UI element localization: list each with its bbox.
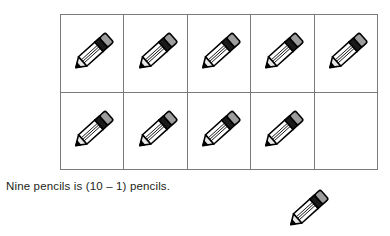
pencil-icon [277,184,337,236]
pencil-icon [193,105,245,157]
loose-pencil[interactable] [277,184,337,236]
caption-text: Nine pencils is (10 – 1) pencils. [6,180,170,192]
ten-frame-cell-3[interactable] [188,15,251,93]
ten-frame-cell-4[interactable] [251,15,314,93]
ten-frame-cell-1[interactable] [61,15,124,93]
ten-frame-cell-10-empty[interactable] [315,93,378,171]
pencil-icon [193,27,245,79]
ten-frame-cell-6[interactable] [61,93,124,171]
ten-frame-cell-2[interactable] [124,15,187,93]
ten-frame-grid [60,14,378,170]
pencil-icon [66,27,118,79]
pencil-icon [256,27,308,79]
ten-frame-cell-8[interactable] [188,93,251,171]
ten-frame-cell-7[interactable] [124,93,187,171]
pencil-icon [130,105,182,157]
ten-frame-cell-5[interactable] [315,15,378,93]
ten-frame-cell-9[interactable] [251,93,314,171]
worksheet-canvas: Nine pencils is (10 – 1) pencils. [0,0,390,236]
pencil-icon [320,27,372,79]
pencil-icon [256,105,308,157]
pencil-icon [130,27,182,79]
pencil-icon [66,105,118,157]
